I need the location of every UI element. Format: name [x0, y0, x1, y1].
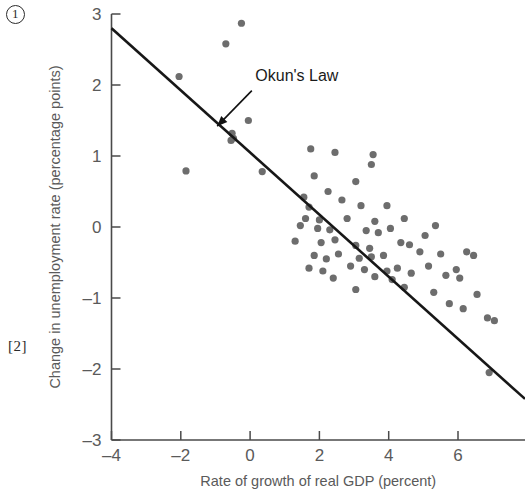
okun-law-scatter-chart: –4–20246 –3–2–10123 Okun's Law Rate of g… — [0, 0, 525, 493]
data-point — [425, 262, 432, 269]
x-tick-label: –4 — [102, 446, 121, 465]
data-point — [368, 161, 375, 168]
y-tick-label: –2 — [83, 360, 102, 379]
data-point — [416, 248, 423, 255]
data-point — [442, 272, 449, 279]
data-point — [335, 250, 342, 257]
x-axis-title: Rate of growth of real GDP (percent) — [200, 473, 436, 489]
y-axis-ticks: –3–2–10123 — [83, 5, 121, 450]
data-point — [361, 266, 368, 273]
x-tick-label: –2 — [171, 446, 190, 465]
x-tick-label: 0 — [245, 446, 254, 465]
x-tick-label: 2 — [315, 446, 324, 465]
data-point — [432, 222, 439, 229]
data-point — [347, 262, 354, 269]
data-point — [330, 275, 337, 282]
data-point — [259, 168, 266, 175]
data-point — [238, 20, 245, 27]
data-point — [292, 238, 299, 245]
y-tick-label: –3 — [83, 431, 102, 450]
data-point — [408, 270, 415, 277]
data-point — [401, 215, 408, 222]
y-axis-title: Change in unemployment rate (percentage … — [47, 65, 63, 388]
data-point — [460, 305, 467, 312]
data-point — [363, 227, 370, 234]
figure-root: 1 [2] –4–20246 –3–2–10123 Okun's Law Rat… — [0, 0, 525, 493]
data-point — [375, 229, 382, 236]
data-point — [421, 232, 428, 239]
data-point — [357, 202, 364, 209]
data-point — [387, 225, 394, 232]
data-point — [352, 178, 359, 185]
data-point — [182, 167, 189, 174]
data-point — [453, 266, 460, 273]
data-point — [307, 145, 314, 152]
data-point — [305, 265, 312, 272]
data-point — [470, 252, 477, 259]
data-point — [380, 252, 387, 259]
data-point — [456, 275, 463, 282]
data-point — [323, 255, 330, 262]
x-tick-label: 6 — [453, 446, 462, 465]
data-point — [175, 73, 182, 80]
annotation-label: Okun's Law — [255, 67, 339, 84]
data-point — [344, 215, 351, 222]
data-point — [331, 236, 338, 243]
data-point — [302, 215, 309, 222]
data-point — [245, 117, 252, 124]
y-tick-label: –1 — [83, 289, 102, 308]
data-point — [437, 250, 444, 257]
data-point — [311, 172, 318, 179]
data-point — [314, 225, 321, 232]
chart-annotations: Okun's Law — [217, 67, 339, 126]
y-tick-label: 2 — [92, 76, 101, 95]
data-point — [331, 149, 338, 156]
y-tick-label: 0 — [92, 218, 101, 237]
data-point — [222, 40, 229, 47]
y-tick-label: 3 — [92, 5, 101, 24]
data-point — [430, 289, 437, 296]
data-point — [319, 267, 326, 274]
data-point — [371, 273, 378, 280]
data-point — [366, 245, 373, 252]
data-point — [356, 255, 363, 262]
data-point — [352, 286, 359, 293]
data-point — [484, 314, 491, 321]
y-tick-label: 1 — [92, 147, 101, 166]
data-point — [473, 291, 480, 298]
data-point — [370, 151, 377, 158]
data-point — [318, 239, 325, 246]
data-point — [406, 241, 413, 248]
data-point — [338, 196, 345, 203]
data-point — [371, 218, 378, 225]
x-axis-ticks: –4–20246 — [102, 431, 463, 465]
data-point — [324, 188, 331, 195]
data-point — [446, 300, 453, 307]
x-tick-label: 4 — [384, 446, 393, 465]
data-point — [394, 265, 401, 272]
data-point — [311, 252, 318, 259]
data-point — [383, 202, 390, 209]
data-point — [463, 248, 470, 255]
data-point — [397, 239, 404, 246]
data-point — [491, 317, 498, 324]
data-point — [297, 222, 304, 229]
